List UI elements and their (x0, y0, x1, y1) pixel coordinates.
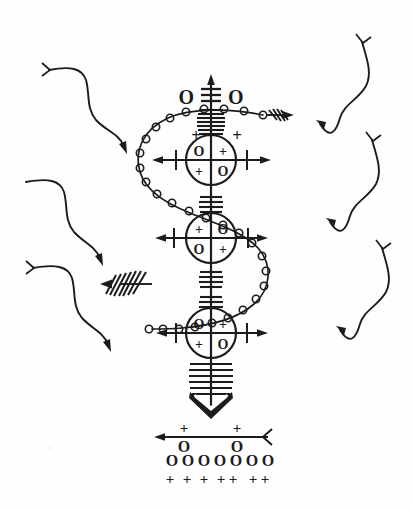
diagram-canvas: O O + + O + + O (0, 0, 412, 509)
node-2-quadrant-br: + (219, 242, 227, 257)
node-1[interactable]: O + + O (186, 135, 236, 185)
footer-plus-2: + (183, 471, 192, 487)
upper-fletching (197, 110, 225, 134)
node-1-quadrant-br: O (218, 164, 229, 179)
footer-plus-6: + (249, 471, 258, 487)
footer-plus-3: + (200, 471, 209, 487)
node-3-quadrant-br: O (218, 337, 229, 352)
footer-circle-3: O (198, 452, 210, 469)
node-3[interactable]: O + + O (186, 308, 236, 358)
footer-plus-1: + (166, 471, 175, 487)
node-1-quadrant-bl: + (195, 164, 203, 179)
top-left-o-glyph: O (178, 86, 194, 108)
node-1-flank-right-plus: + (232, 126, 242, 145)
footer-circle-4: O (214, 452, 226, 469)
node-1-quadrant-tr: + (219, 144, 227, 159)
footer-plus-7: + (261, 471, 270, 487)
footer-circle-5: O (230, 452, 242, 469)
node-2-quadrant-bl: O (194, 242, 205, 257)
footer-plus-4: + (217, 471, 226, 487)
footer-top-mark-1: + (180, 420, 189, 436)
node-3-quadrant-bl: + (195, 337, 203, 352)
node-2-quadrant-tl: + (195, 222, 203, 237)
top-right-o-glyph: O (228, 86, 244, 108)
footer-top-mark-2: + (233, 420, 242, 436)
footer-plus-5: + (229, 471, 238, 487)
canvas-background (0, 0, 412, 509)
footer-circle-2: O (182, 452, 194, 469)
footer-circle-7: O (262, 452, 274, 469)
figure-svg: O O + + O + + O (0, 0, 412, 509)
footer-circle-row: O O O O O O O (166, 452, 274, 469)
footer-circle-1: O (166, 452, 178, 469)
footer-circle-6: O (246, 452, 258, 469)
node-1-quadrant-tl: O (194, 144, 205, 159)
